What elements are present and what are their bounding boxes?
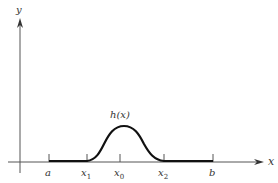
tick-label-b: b: [209, 167, 215, 178]
bump-function-diagram: y x h(x) a x1 x0 x2 b: [0, 0, 278, 183]
y-axis: y: [15, 4, 23, 173]
y-axis-label: y: [15, 4, 22, 15]
tick-label-x1: x1: [81, 167, 91, 181]
tick-label-a: a: [45, 167, 51, 178]
x-axis-label: x: [268, 155, 275, 168]
tick-label-x2: x2: [158, 167, 168, 181]
tick-labels: a x1 x0 x2 b: [45, 167, 215, 181]
tick-label-x0: x0: [114, 167, 124, 181]
curve-label: h(x): [110, 109, 130, 120]
h-curve: [49, 126, 213, 161]
